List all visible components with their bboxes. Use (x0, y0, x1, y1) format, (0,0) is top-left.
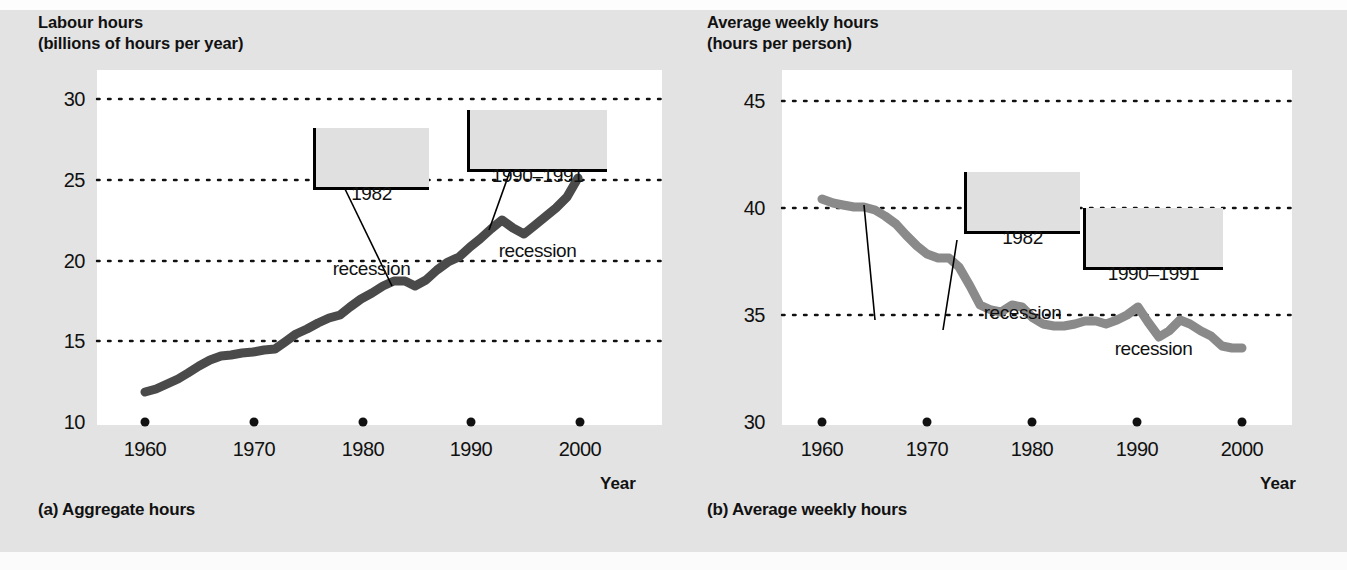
panel-a-xdot-1960 (141, 418, 150, 427)
panel-b-xdot-2000 (1238, 418, 1247, 427)
panel-a-ytick-20: 20 (38, 250, 85, 273)
panel-a-ytick-10: 10 (38, 411, 85, 434)
panel-a-xaxis-label: Year (600, 474, 636, 494)
panel-a-annotation-1990-1991: 1990–1991 recession (467, 110, 607, 172)
panel-a-xdot-1980 (359, 418, 368, 427)
panel-b-xtick-1990: 1990 (1092, 438, 1182, 461)
panel-b-leader-lines (864, 205, 957, 330)
panel-a-xdot-2000 (576, 418, 585, 427)
panel-b-xdot-1990 (1133, 418, 1142, 427)
panel-a-xdot-1990 (467, 418, 476, 427)
panel-a-annotation-1982-line1: 1982 (324, 181, 419, 206)
panel-a-annotation-1982: 1982 recession (313, 128, 429, 190)
panel-b-annotation-1982-line2: recession (975, 300, 1070, 325)
panel-b-annotation-1990-1991: 1990–1991 recession (1083, 208, 1223, 270)
panel-a-xdot-1970 (250, 418, 259, 427)
panel-b-annotation-1982-line1: 1982 (975, 225, 1070, 250)
panel-b-caption: (b) Average weekly hours (707, 500, 907, 520)
panel-b-xtick-1980: 1980 (987, 438, 1077, 461)
panel-a-caption: (a) Aggregate hours (38, 500, 195, 520)
panel-a-xtick-1980: 1980 (318, 438, 408, 461)
panel-b-ytick-35: 35 (707, 304, 765, 327)
panel-average-weekly-hours: Average weekly hours (hours per person) … (672, 0, 1347, 570)
panel-b-annotation-1982: 1982 recession (964, 172, 1080, 234)
panel-b-xtick-1960: 1960 (777, 438, 867, 461)
figure-container: Labour hours (billions of hours per year… (0, 0, 1347, 570)
panel-a-annotation-1990-1991-line1: 1990–1991 (478, 163, 597, 188)
panel-a-xtick-1970: 1970 (209, 438, 299, 461)
panel-a-xtick-1960: 1960 (100, 438, 190, 461)
panel-b-xtick-1970: 1970 (882, 438, 972, 461)
panel-b-xdot-1970 (923, 418, 932, 427)
panel-b-annotation-1990-1991-line2: recession (1094, 336, 1213, 361)
panel-a-xtick-2000: 2000 (535, 438, 625, 461)
panel-b-xtick-2000: 2000 (1197, 438, 1287, 461)
panel-b-annotation-1990-1991-line1: 1990–1991 (1094, 261, 1213, 286)
panel-b-ytick-40: 40 (707, 197, 765, 220)
panel-a-ytick-15: 15 (38, 330, 85, 353)
panel-b-ytick-45: 45 (707, 90, 765, 113)
panel-b-ytick-30: 30 (707, 411, 765, 434)
panel-a-annotation-1982-line2: recession (324, 256, 419, 281)
panel-a-annotation-1990-1991-line2: recession (478, 238, 597, 263)
panel-b-xdot-1960 (818, 418, 827, 427)
panel-a-ytick-25: 25 (38, 169, 85, 192)
panel-a-ytick-30: 30 (38, 88, 85, 111)
panel-aggregate-hours: Labour hours (billions of hours per year… (0, 0, 672, 570)
panel-a-xtick-1990: 1990 (426, 438, 516, 461)
panel-b-xdot-1980 (1028, 418, 1037, 427)
panel-b-xaxis-label: Year (1260, 474, 1296, 494)
